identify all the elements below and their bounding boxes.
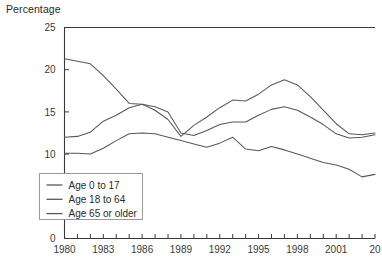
- legend-label-3: Age 65 or older: [69, 208, 138, 219]
- y-tick-label: 25: [44, 22, 56, 33]
- y-axis-tick-marks: [65, 28, 70, 197]
- y-tick-label: 10: [44, 149, 56, 160]
- x-tick-label: 1992: [209, 244, 232, 255]
- x-axis-tick-marks: [65, 234, 376, 239]
- x-tick-label: 2001: [325, 244, 348, 255]
- x-tick-label: 1989: [170, 244, 193, 255]
- series-line-2: [65, 104, 376, 138]
- chart-legend: Age 0 to 17Age 18 to 64Age 65 or older: [40, 174, 143, 220]
- legend-label-1: Age 0 to 17: [69, 180, 121, 191]
- legend-label-2: Age 18 to 64: [69, 194, 126, 205]
- x-tick-label: 1983: [92, 244, 115, 255]
- y-tick-label: 20: [44, 64, 56, 75]
- x-tick-label: 1980: [53, 244, 76, 255]
- line-chart-plot: 0510152025 19801983198619891992199519982…: [0, 0, 382, 261]
- x-axis-tick-labels: 1980198319861989199219951998200120: [53, 244, 381, 255]
- x-tick-label: 1995: [247, 244, 270, 255]
- y-tick-label: 0: [50, 233, 56, 244]
- data-series-group: [65, 59, 376, 177]
- y-tick-label: 15: [44, 107, 56, 118]
- x-tick-label: 1998: [286, 244, 309, 255]
- chart-container: Percentage 0510152025 198019831986198919…: [0, 0, 382, 261]
- series-line-3: [65, 133, 376, 177]
- x-tick-label: 20: [369, 244, 381, 255]
- x-tick-label: 1986: [131, 244, 154, 255]
